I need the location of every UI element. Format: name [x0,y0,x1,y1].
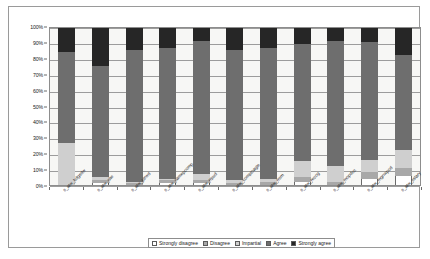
bar-segment-impartial [361,160,378,173]
y-axis-tick-mark [44,90,47,91]
chart-legend: Strongly disagreeDisagreeImpartialAgreeS… [148,238,335,248]
y-axis-tick-mark [44,170,47,171]
bar-s_atw_rrpud[interactable] [193,28,210,185]
bar-segment-strongly-agree [58,28,75,52]
bar-segment-agree [361,42,378,160]
legend-item-agree[interactable]: Agree [266,240,286,246]
bar-segment-agree [58,52,75,143]
y-axis-tick-mark [44,58,47,59]
chart-root: 0%10%20%30%40%50%60%70%80%90%100% s_atw_… [0,0,430,259]
y-axis-tick-mark [44,27,47,28]
y-axis-tick-label: 40% [33,119,43,125]
x-axis-tick-mark [286,187,287,190]
legend-label: Strongly agree [298,240,331,246]
y-axis-tick-label: 60% [33,88,43,94]
y-axis-tick-label: 10% [33,167,43,173]
legend-swatch-icon [266,241,271,246]
bars-layer [50,28,420,185]
bar-segment-strongly-agree [126,28,143,50]
bar-s_atw_bdgsdw[interactable] [58,28,75,185]
y-axis-tick-label: 30% [33,135,43,141]
bar-segment-strongly-agree [395,28,412,55]
y-axis-tick-mark [44,154,47,155]
x-axis-tick-mark [353,187,354,190]
bar-segment-agree [294,44,311,162]
bar-segment-impartial [395,150,412,167]
bar-segment-strongly-agree [260,28,277,48]
bar-segment-strongly-agree [294,28,311,44]
bar-s_atw_rrsm[interactable] [260,28,277,185]
legend-label: Disagree [210,240,230,246]
x-axis-tick-mark [218,187,219,190]
bar-segment-strongly-agree [159,28,176,48]
y-axis-tick-label: 100% [30,24,43,30]
y-axis-tick-mark [44,106,47,107]
bar-segment-strongly-agree [361,28,378,42]
bar-segment-strongly-agree [193,28,210,41]
y-axis-tick-mark [44,138,47,139]
y-axis-tick-mark [44,74,47,75]
legend-swatch-icon [203,241,208,246]
y-axis-tick-mark [44,186,47,187]
bar-segment-impartial [294,161,311,177]
bar-segment-strongly-agree [92,28,109,66]
legend-item-impartial[interactable]: Impartial [235,240,261,246]
y-axis-tick-mark [44,42,47,43]
plot-area [49,27,421,186]
bar-segment-agree [159,48,176,178]
y-axis-tick-label: 0% [36,183,43,189]
bar-s_atw_recog[interactable] [294,28,311,185]
y-axis-tick-label: 70% [33,72,43,78]
legend-label: Strongly disagree [159,240,198,246]
x-axis: s_atw_bdgsdws_atw_sltes_atw_ptrwds_atw_s… [49,187,421,239]
legend-label: Agree [273,240,286,246]
legend-label: Impartial [242,240,261,246]
x-axis-tick-mark [184,187,185,190]
legend-swatch-icon [291,241,296,246]
chart-frame: 0%10%20%30%40%50%60%70%80%90%100% s_atw_… [8,6,420,248]
x-axis-tick-mark [49,187,50,190]
y-axis-tick-label: 50% [33,104,43,110]
bar-s_atw_ptrwd[interactable] [126,28,143,185]
bar-segment-agree [327,41,344,167]
y-axis-tick-label: 90% [33,40,43,46]
bar-segment-agree [395,55,412,151]
bar-segment-strongly-agree [327,28,344,41]
bar-s_atw_sslary[interactable] [395,28,412,185]
bar-s_atw_mgnwpod[interactable] [361,28,378,185]
x-axis-tick-mark [320,187,321,190]
y-axis: 0%10%20%30%40%50%60%70%80%90%100% [13,27,47,186]
y-axis-tick-mark [44,122,47,123]
bar-segment-agree [193,41,210,174]
bar-segment-agree [260,48,277,178]
x-axis-tick-mark [252,187,253,190]
x-axis-tick-mark [117,187,118,190]
bar-segment-strongly-agree [226,28,243,50]
legend-swatch-icon [152,241,157,246]
bar-s_atw_samepcomp[interactable] [159,28,176,185]
bar-segment-disagree [395,168,412,176]
x-axis-tick-mark [421,187,422,190]
legend-item-disagree[interactable]: Disagree [203,240,230,246]
x-axis-tick-mark [387,187,388,190]
y-axis-tick-label: 20% [33,151,43,157]
legend-item-strongly-disagree[interactable]: Strongly disagree [152,240,198,246]
x-axis-tick-mark [150,187,151,190]
legend-swatch-icon [235,241,240,246]
bar-segment-agree [92,66,109,177]
bar-segment-agree [126,50,143,182]
y-axis-tick-label: 80% [33,56,43,62]
bar-s_atw_comptoagle[interactable] [226,28,243,185]
bar-s_atw_slte[interactable] [92,28,109,185]
bar-s_atw_mopdoc[interactable] [327,28,344,185]
legend-item-strongly-agree[interactable]: Strongly agree [291,240,331,246]
x-axis-tick-mark [83,187,84,190]
bar-segment-agree [226,50,243,180]
